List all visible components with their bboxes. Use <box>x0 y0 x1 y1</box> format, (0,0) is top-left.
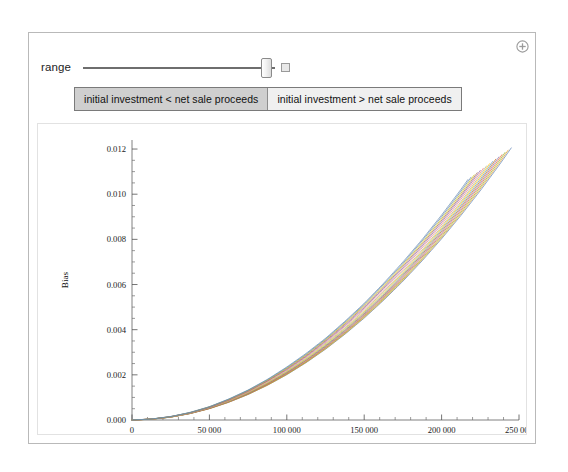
chart-line-curve-12 <box>132 173 477 420</box>
y-axis-tick-label: 0.004 <box>107 325 127 335</box>
chart-line-curve-2 <box>132 150 508 420</box>
y-axis-tick-label: 0.000 <box>107 415 126 425</box>
chart-line-curve-1 <box>132 148 511 420</box>
setter-option-initial-investment-greater-than[interactable]: initial investment > net sale proceeds <box>268 88 460 110</box>
chart-line-curve-6 <box>132 159 496 420</box>
chart-line-curve-7 <box>132 161 493 420</box>
slider-track[interactable] <box>83 67 275 69</box>
x-axis-tick-label: 200 000 <box>428 425 456 434</box>
y-axis-tick-label: 0.010 <box>107 189 126 199</box>
slider-row: range <box>41 57 523 79</box>
chart-line-curve-14 <box>132 177 471 420</box>
chart-line-curve-11 <box>132 170 480 420</box>
chart-line-curve-9 <box>132 166 486 420</box>
y-axis-tick-label: 0.012 <box>107 144 126 154</box>
bias-vs-cashflow-chart: 050 000100 000150 000200 000250 0000.000… <box>38 124 526 434</box>
chart-line-curve-4 <box>132 155 502 420</box>
setter-option-initial-investment-less-than[interactable]: initial investment < net sale proceeds <box>75 88 268 110</box>
y-axis-tick-label: 0.002 <box>107 370 126 380</box>
y-axis-tick-label: 0.008 <box>107 234 126 244</box>
x-axis-tick-label: 250 000 <box>505 425 526 434</box>
plus-circle-icon[interactable] <box>516 39 529 52</box>
x-axis-tick-label: 0 <box>130 425 134 434</box>
chart-line-curve-5 <box>132 157 499 420</box>
chart-line-curve-3 <box>132 152 505 420</box>
slider-label: range <box>41 61 71 73</box>
manipulate-panel: range initial investment < net sale proc… <box>28 32 536 444</box>
chart-line-curve-15 <box>132 180 468 420</box>
range-slider[interactable] <box>83 57 275 79</box>
slider-animate-button[interactable] <box>281 63 290 72</box>
y-axis-tick-label: 0.006 <box>107 280 127 290</box>
chart-line-curve-8 <box>132 164 490 420</box>
slider-thumb[interactable] <box>261 58 272 78</box>
chart-line-curve-13 <box>132 175 474 420</box>
y-axis-title: Bias <box>60 271 70 288</box>
plot-frame: 050 000100 000150 000200 000250 0000.000… <box>37 123 527 435</box>
chart-line-curve-10 <box>132 168 483 420</box>
x-axis-tick-label: 50 000 <box>198 425 222 434</box>
x-axis-tick-label: 150 000 <box>350 425 378 434</box>
setter-bar: initial investment < net sale proceeds i… <box>74 87 462 111</box>
x-axis-tick-label: 100 000 <box>273 425 301 434</box>
